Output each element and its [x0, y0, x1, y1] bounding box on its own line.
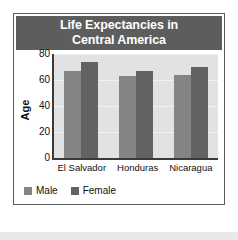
chart-card: Life Expectancies in Central America Age… — [13, 13, 225, 205]
chart-inner: Life Expectancies in Central America Age… — [16, 16, 222, 202]
bar-group — [174, 54, 208, 158]
y-tick-label: 40 — [30, 101, 50, 111]
legend-item-female: Female — [71, 185, 116, 196]
chart-title-line-2: Central America — [72, 33, 166, 48]
y-tick-label: 60 — [30, 75, 50, 85]
legend-item-male: Male — [24, 185, 58, 196]
bar-group — [64, 54, 98, 158]
x-tick-label: El Salvador — [57, 162, 106, 173]
bar-female — [81, 62, 98, 158]
y-tick-label: 80 — [30, 49, 50, 59]
bar-female — [191, 67, 208, 158]
y-axis-ticks: 80 60 40 20 0 — [30, 54, 50, 158]
legend-swatch-icon — [71, 187, 79, 195]
bar-group — [119, 54, 153, 158]
legend-label: Male — [36, 185, 58, 196]
bar-female — [136, 71, 153, 158]
chart-title: Life Expectancies in Central America — [16, 16, 222, 50]
legend-label: Female — [83, 185, 116, 196]
bar-male — [174, 75, 191, 158]
legend-swatch-icon — [24, 187, 32, 195]
y-tick-label: 20 — [30, 127, 50, 137]
chart-title-line-1: Life Expectancies in — [60, 18, 178, 33]
x-axis-labels: El Salvador Honduras Nicaragua — [52, 162, 218, 173]
plot-area — [52, 54, 218, 160]
y-tick-label: 0 — [30, 153, 50, 163]
x-tick-label: Nicaragua — [169, 162, 212, 173]
chart-legend: Male Female — [24, 185, 116, 196]
bar-series-container — [54, 54, 218, 158]
x-tick-label: Honduras — [117, 162, 158, 173]
bar-male — [64, 71, 81, 158]
plot-region: Age 80 60 40 20 0 — [16, 50, 222, 176]
bar-male — [119, 76, 136, 158]
